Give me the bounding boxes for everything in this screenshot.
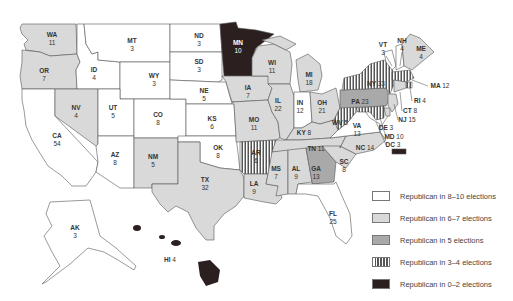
svg-text:DC 3: DC 3 [386, 141, 401, 148]
svg-text:MS: MS [271, 165, 281, 172]
svg-text:AR: AR [251, 149, 261, 156]
svg-text:54: 54 [53, 140, 61, 147]
state-fl[interactable] [296, 182, 352, 244]
svg-text:GA: GA [311, 165, 321, 172]
svg-text:21: 21 [318, 107, 326, 114]
svg-text:4: 4 [419, 53, 423, 60]
legend-label: Republican in 5 elections [400, 236, 483, 245]
svg-text:NV: NV [71, 104, 81, 111]
svg-text:8: 8 [156, 119, 160, 126]
state-or[interactable] [20, 50, 80, 89]
svg-text:9: 9 [294, 173, 298, 180]
svg-text:WA: WA [47, 31, 58, 38]
svg-text:6: 6 [254, 157, 258, 164]
state-me[interactable] [402, 34, 434, 70]
svg-text:13: 13 [312, 173, 320, 180]
svg-text:3: 3 [152, 80, 156, 87]
svg-text:KS: KS [207, 115, 217, 122]
svg-text:ND: ND [194, 32, 204, 39]
svg-text:PA 23: PA 23 [351, 98, 369, 105]
legend: Republican in 8–10 elections Republican … [372, 185, 512, 295]
svg-text:RI 4: RI 4 [414, 97, 426, 104]
legend-swatch-white [372, 191, 390, 201]
svg-text:5: 5 [202, 95, 206, 102]
svg-text:3: 3 [73, 232, 77, 239]
svg-text:MO: MO [249, 116, 259, 123]
svg-text:7: 7 [42, 75, 46, 82]
svg-text:NM: NM [148, 153, 158, 160]
svg-text:11: 11 [251, 124, 258, 131]
legend-label: Republican in 8–10 elections [400, 192, 496, 201]
svg-text:3: 3 [381, 49, 385, 56]
svg-text:6: 6 [210, 123, 214, 130]
state-sd[interactable] [170, 52, 222, 82]
state-ri[interactable] [406, 82, 412, 88]
state-nm[interactable] [134, 138, 178, 188]
svg-text:8: 8 [342, 166, 346, 173]
svg-text:MI: MI [305, 71, 312, 78]
legend-item-8-10: Republican in 8–10 elections [372, 185, 512, 207]
svg-text:11: 11 [269, 67, 276, 74]
legend-label: Republican in 0–2 elections [400, 280, 492, 289]
state-wy[interactable] [120, 62, 170, 99]
svg-text:9: 9 [252, 188, 256, 195]
svg-text:SD: SD [194, 58, 203, 65]
legend-label: Republican in 6–7 elections [400, 214, 492, 223]
svg-text:TX: TX [201, 176, 210, 183]
svg-text:WI: WI [268, 59, 276, 66]
svg-text:NY 33: NY 33 [367, 80, 385, 87]
svg-text:13: 13 [353, 130, 361, 137]
svg-text:7: 7 [246, 92, 250, 99]
svg-text:WV 5: WV 5 [332, 119, 348, 126]
state-ct[interactable] [394, 80, 406, 92]
svg-text:CO: CO [153, 111, 163, 118]
svg-text:3: 3 [130, 45, 134, 52]
legend-item-0-2: Republican in 0–2 elections [372, 273, 512, 295]
svg-text:MA 12: MA 12 [431, 82, 450, 89]
svg-text:4: 4 [74, 112, 78, 119]
legend-swatch-striped [372, 257, 390, 267]
legend-swatch-black [372, 279, 390, 289]
svg-text:25: 25 [329, 218, 337, 225]
svg-text:OK: OK [213, 144, 223, 151]
svg-text:10: 10 [234, 47, 242, 54]
svg-text:MT: MT [127, 37, 136, 44]
svg-text:IL: IL [275, 97, 281, 104]
legend-label: Republican in 3–4 elections [400, 258, 492, 267]
svg-text:CA: CA [52, 132, 62, 139]
legend-swatch-light-gray [372, 213, 390, 223]
svg-text:VA: VA [353, 122, 362, 129]
svg-text:AK: AK [70, 224, 80, 231]
svg-text:FL: FL [329, 210, 337, 217]
state-co[interactable] [134, 99, 186, 138]
svg-text:IA: IA [245, 84, 252, 91]
svg-text:WY: WY [149, 72, 160, 79]
svg-text:CT 8: CT 8 [403, 107, 417, 114]
svg-text:KY 8: KY 8 [297, 129, 312, 136]
svg-text:ID: ID [91, 66, 98, 73]
svg-text:7: 7 [274, 173, 278, 180]
state-de[interactable] [384, 108, 390, 116]
state-dc[interactable] [392, 149, 406, 154]
svg-text:5: 5 [151, 161, 155, 168]
state-ak[interactable] [42, 200, 136, 284]
svg-text:LA: LA [250, 180, 259, 187]
svg-text:IN: IN [297, 99, 304, 106]
legend-item-3-4: Republican in 3–4 elections [372, 251, 512, 273]
svg-text:SC: SC [339, 158, 348, 165]
svg-text:3: 3 [197, 40, 201, 47]
svg-text:DE 3: DE 3 [379, 124, 394, 131]
svg-text:VT: VT [379, 41, 387, 48]
svg-text:5: 5 [111, 112, 115, 119]
svg-text:32: 32 [201, 184, 209, 191]
svg-text:4: 4 [400, 45, 404, 52]
legend-swatch-dark-gray [372, 235, 390, 245]
svg-text:12: 12 [296, 107, 304, 114]
svg-text:NH: NH [397, 37, 407, 44]
svg-text:AZ: AZ [111, 151, 120, 158]
svg-text:OR: OR [39, 67, 49, 74]
svg-text:OH: OH [317, 99, 327, 106]
legend-item-6-7: Republican in 6–7 elections [372, 207, 512, 229]
svg-text:ME: ME [416, 45, 426, 52]
legend-item-5: Republican in 5 elections [372, 229, 512, 251]
